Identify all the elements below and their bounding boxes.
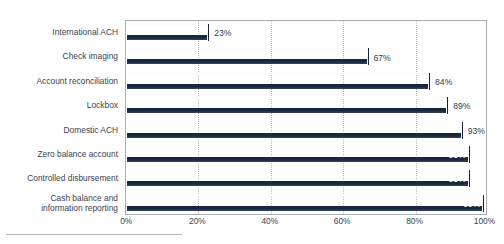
bar-value-label: 93% bbox=[468, 126, 485, 136]
bar-highlight bbox=[126, 97, 447, 98]
bar[interactable] bbox=[126, 122, 463, 139]
x-tick-label: 60% bbox=[334, 216, 351, 226]
category-label-line: Check imaging bbox=[0, 51, 118, 61]
bar-highlight bbox=[126, 48, 368, 49]
category-label-line: Cash balance and bbox=[0, 193, 118, 203]
x-tick-label: 20% bbox=[189, 216, 206, 226]
bar-value-label: 95% bbox=[442, 174, 466, 184]
category-label: Lockbox bbox=[0, 93, 118, 117]
bar-shadow-stripe bbox=[127, 181, 468, 186]
category-label-line: Controlled disbursement bbox=[0, 173, 118, 183]
bar-shadow-stripe bbox=[127, 157, 468, 162]
category-label-line: Account reconciliation bbox=[0, 76, 118, 86]
bar-shadow-stripe bbox=[127, 206, 482, 211]
bar-highlight bbox=[126, 146, 469, 147]
bar-row: 99% bbox=[126, 192, 487, 215]
bar[interactable] bbox=[126, 195, 484, 212]
bar-value-label: 89% bbox=[453, 101, 470, 111]
category-label: Zero balance account bbox=[0, 142, 118, 166]
plot-area: 23%67%84%89%93%95%95%99% bbox=[125, 20, 487, 215]
bar-shadow-stripe bbox=[127, 84, 428, 89]
bar-shadow-stripe bbox=[127, 35, 207, 40]
bar-row: 95% bbox=[126, 167, 487, 191]
category-label-line: information reporting bbox=[0, 203, 118, 213]
bar-highlight bbox=[126, 195, 483, 196]
bar-row: 93% bbox=[126, 119, 487, 143]
bar[interactable] bbox=[126, 48, 369, 65]
bar-highlight bbox=[126, 24, 208, 25]
bar-shadow-stripe bbox=[127, 108, 446, 113]
bar-value-label: 67% bbox=[374, 53, 391, 63]
bar-value-label: 95% bbox=[442, 150, 466, 160]
category-label-line: Lockbox bbox=[0, 100, 118, 110]
bar[interactable] bbox=[126, 170, 470, 187]
bar-value-label: 99% bbox=[456, 199, 480, 209]
x-tick-label: 100% bbox=[474, 216, 495, 226]
bar[interactable] bbox=[126, 97, 448, 114]
x-tick-label: 80% bbox=[406, 216, 423, 226]
category-label-line: Domestic ACH bbox=[0, 125, 118, 135]
category-label: Controlled disbursement bbox=[0, 166, 118, 190]
bar-row: 67% bbox=[126, 45, 487, 69]
bar-chart: International ACHCheck imagingAccount re… bbox=[0, 0, 504, 244]
footer-divider bbox=[6, 234, 182, 235]
category-label: Domestic ACH bbox=[0, 118, 118, 142]
x-tick-label: 0% bbox=[120, 216, 132, 226]
bar-value-label: 84% bbox=[435, 77, 452, 87]
category-label-line: International ACH bbox=[0, 27, 118, 37]
category-label: International ACH bbox=[0, 20, 118, 44]
category-label: Cash balance andinformation reporting bbox=[0, 191, 118, 215]
bar-shadow-stripe bbox=[127, 59, 367, 64]
bar-row: 84% bbox=[126, 70, 487, 94]
bar-shadow-stripe bbox=[127, 133, 461, 138]
bar[interactable] bbox=[126, 73, 430, 90]
bar-row: 89% bbox=[126, 94, 487, 118]
bar-highlight bbox=[126, 170, 469, 171]
category-axis-labels: International ACHCheck imagingAccount re… bbox=[0, 20, 122, 215]
category-label: Account reconciliation bbox=[0, 69, 118, 93]
bar[interactable] bbox=[126, 146, 470, 163]
x-axis-tick-labels: 0%20%40%60%80%100% bbox=[0, 216, 504, 232]
x-tick-label: 40% bbox=[261, 216, 278, 226]
category-label-line: Zero balance account bbox=[0, 149, 118, 159]
chart-title bbox=[150, 0, 400, 4]
bar[interactable] bbox=[126, 24, 209, 41]
bar-value-label: 23% bbox=[214, 28, 231, 38]
category-label: Check imaging bbox=[0, 44, 118, 68]
bar-row: 23% bbox=[126, 21, 487, 45]
bar-highlight bbox=[126, 122, 462, 123]
bar-highlight bbox=[126, 73, 429, 74]
bar-row: 95% bbox=[126, 143, 487, 167]
